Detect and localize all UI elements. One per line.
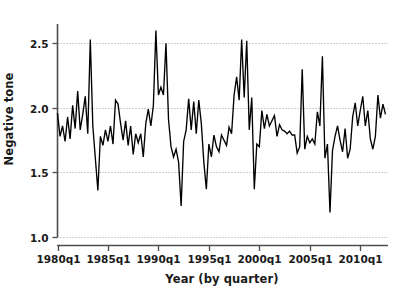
x-tick-label: 2000q1 [237, 253, 281, 265]
y-tick-label: 2.0 [30, 103, 49, 115]
x-tick-label: 1990q1 [136, 253, 180, 265]
y-tick-group: 1.01.52.02.5 [30, 38, 58, 244]
data-series-line [58, 30, 386, 212]
y-tick-label: 1.0 [30, 232, 49, 244]
x-tick-label: 1980q1 [36, 253, 80, 265]
chart-plot-area: 1.01.52.02.5 1980q11985q11990q11995q1200… [0, 0, 397, 295]
x-tick-label: 1985q1 [86, 253, 130, 265]
y-tick-label: 2.5 [30, 38, 49, 50]
y-tick-label: 1.5 [30, 167, 49, 179]
x-tick-group: 1980q11985q11990q11995q12000q12005q12010… [36, 246, 382, 266]
negative-tone-chart-figure: Negative tone Year (by quarter) 1.01.52.… [0, 0, 397, 295]
x-tick-label: 1995q1 [187, 253, 231, 265]
x-tick-label: 2010q1 [338, 253, 382, 265]
x-tick-label: 2005q1 [288, 253, 332, 265]
